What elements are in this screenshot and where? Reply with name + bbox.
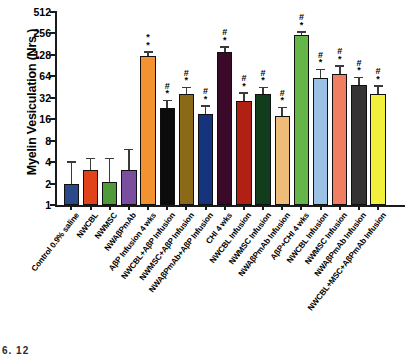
bar (351, 85, 366, 205)
significance-marker: #* (165, 83, 170, 98)
x-tick-mark (281, 205, 283, 210)
x-tick-mark (224, 205, 226, 210)
bar (236, 101, 251, 205)
significance-marker: #* (241, 75, 246, 90)
y-tick-mark (50, 161, 56, 163)
significance-marker: #* (337, 48, 342, 63)
error-bar (128, 149, 130, 170)
plot-area: 1248163264128256512 **#*#*#*#*#*#*#*#*#*… (56, 12, 404, 205)
bar (217, 52, 232, 205)
x-axis-line (55, 205, 405, 207)
bar (140, 56, 155, 205)
x-tick-mark (205, 205, 207, 210)
bar (332, 74, 347, 205)
x-tick-mark (358, 205, 360, 210)
y-tick-mark (50, 118, 56, 120)
x-tick-mark (377, 205, 379, 210)
bar (275, 116, 290, 205)
error-bar-cap (278, 107, 287, 109)
x-tick-mark (300, 205, 302, 210)
error-bar-cap (105, 158, 114, 160)
bar (102, 182, 117, 205)
y-tick-mark (50, 75, 56, 77)
x-tick-mark (109, 205, 111, 210)
x-tick-mark (243, 205, 245, 210)
x-tick-mark (262, 205, 264, 210)
significance-marker: #* (356, 60, 361, 75)
bar (294, 35, 309, 205)
bar (83, 170, 98, 205)
error-bar-cap (374, 85, 383, 87)
significance-marker: #* (203, 88, 208, 103)
y-tick-mark (50, 140, 56, 142)
x-tick-mark (128, 205, 130, 210)
y-tick-mark (50, 54, 56, 56)
error-bar-cap (220, 46, 229, 48)
y-tick-mark (50, 97, 56, 99)
x-tick-mark (90, 205, 92, 210)
significance-marker: #* (299, 14, 304, 29)
x-tick-mark (166, 205, 168, 210)
significance-marker: #* (261, 70, 266, 85)
significance-marker: #* (318, 52, 323, 67)
x-tick-mark (320, 205, 322, 210)
error-bar-cap (67, 161, 76, 163)
error-bar-cap (124, 149, 133, 151)
x-tick-mark (185, 205, 187, 210)
y-tick-mark (50, 32, 56, 34)
error-bar-cap (259, 87, 268, 89)
error-bar-cap (316, 69, 325, 71)
bar (179, 94, 194, 205)
bar (370, 94, 385, 205)
error-bar-cap (335, 65, 344, 67)
error-bar-cap (163, 100, 172, 102)
significance-marker: #* (280, 90, 285, 105)
significance-marker: #* (376, 68, 381, 83)
bar (198, 114, 213, 205)
error-bar-cap (201, 105, 210, 107)
significance-marker: #* (222, 29, 227, 44)
error-bar (109, 158, 111, 182)
x-axis-label: Control 0.9% saline (30, 211, 81, 273)
bar (64, 184, 79, 205)
error-bar-cap (86, 158, 95, 160)
significance-marker: ** (146, 34, 150, 49)
significance-marker: #* (184, 70, 189, 85)
error-bar-cap (354, 77, 363, 79)
bar (121, 170, 136, 205)
y-tick-mark (50, 183, 56, 185)
bar (255, 94, 270, 205)
error-bar (90, 158, 92, 170)
y-tick-mark (50, 204, 56, 206)
figure-footer-fragment: 6, 12 (2, 345, 29, 354)
error-bar (71, 161, 73, 183)
bar (160, 108, 175, 205)
x-tick-mark (339, 205, 341, 210)
error-bar-cap (182, 87, 191, 89)
error-bar-cap (239, 92, 248, 94)
error-bar-cap (144, 51, 153, 53)
bar (313, 78, 328, 205)
error-bar-cap (297, 31, 306, 33)
y-tick-mark (50, 11, 56, 13)
x-tick-mark (147, 205, 149, 210)
x-tick-mark (70, 205, 72, 210)
